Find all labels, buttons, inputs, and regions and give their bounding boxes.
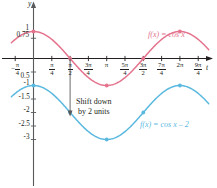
- x-tick-label: 3π4: [84, 62, 93, 76]
- x-tick-label: π: [105, 62, 109, 69]
- data-point: [178, 84, 182, 88]
- shift-annotation: Shift down by 2 units: [76, 97, 111, 117]
- y-axis-label: y: [28, 0, 31, 8]
- x-tick-label: π4: [49, 62, 54, 76]
- x-tick-label: 3π2: [139, 62, 148, 76]
- x-tick-label: −π4: [11, 62, 20, 76]
- y-tick-label: -3: [24, 134, 30, 141]
- y-axis-arrowhead: [31, 2, 36, 9]
- y-tick-label: -1.5: [19, 94, 30, 101]
- function-label-cos-x-minus-2: f(x) = cos x – 2: [140, 121, 189, 129]
- y-tick-label: -1: [24, 80, 30, 87]
- x-tick-label: 2π: [176, 62, 183, 69]
- function-label-cos-x: f(x) = cos x: [148, 31, 185, 39]
- x-axis-label: t: [206, 64, 208, 72]
- plot-canvas: [0, 0, 217, 188]
- cosine-shift-graph: −π4π4π23π4π5π43π27π42π9π4 10.750.5-1-1.5…: [0, 0, 217, 188]
- data-point: [32, 84, 36, 88]
- data-point: [105, 84, 109, 88]
- shift-annotation-line1: Shift down: [76, 97, 111, 106]
- y-tick-label: -2.5: [19, 121, 30, 128]
- data-point: [105, 138, 109, 142]
- x-axis-arrowhead: [206, 56, 213, 61]
- shift-annotation-line2: by 2 units: [78, 107, 110, 116]
- y-tick-label: 0.75: [17, 32, 30, 39]
- data-point: [141, 57, 145, 61]
- data-point: [141, 111, 145, 115]
- x-tick-label: 9π4: [194, 62, 203, 76]
- data-point: [32, 30, 36, 34]
- x-tick-label: π2: [68, 62, 73, 76]
- y-tick-label: -2: [24, 107, 30, 114]
- x-tick-label: 5π4: [120, 62, 129, 76]
- x-tick-label: 7π4: [157, 62, 166, 76]
